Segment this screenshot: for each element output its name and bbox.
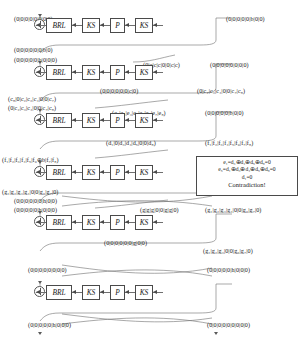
- arrow-icon: [100, 22, 110, 30]
- gate-chain-r6: BRL KS P KS: [36, 285, 163, 300]
- label-r6-bottom-right: (0|0|0|0|0|0|0|0|0): [207, 322, 250, 328]
- arrow-icon: [153, 289, 163, 297]
- gate-p-r1[interactable]: P: [110, 18, 125, 33]
- gate-ks-a-r2[interactable]: KS: [82, 65, 100, 80]
- gate-ks-b-r3[interactable]: KS: [135, 113, 153, 128]
- gate-ks-a-r3[interactable]: KS: [82, 113, 100, 128]
- arrow-icon: [153, 219, 163, 227]
- gate-ks-b-r1[interactable]: KS: [135, 18, 153, 33]
- label-r6-bottom-left: (0|0|0|0|0|h|0|0|0): [28, 322, 71, 328]
- arrow-icon: [72, 69, 82, 77]
- arrow-icon: [153, 22, 163, 30]
- gate-chain-r2: BRL KS P KS: [36, 65, 163, 80]
- arrow-icon: [125, 22, 135, 30]
- contradiction-box: e₁=d₃⊕d₄⊕d₅⊕d₈=0 e₅=d₁⊕d₃⊕d₄⊕d₅⊕d₈=0 d₁=…: [196, 156, 298, 196]
- gate-chain-r5: BRL KS P KS: [36, 215, 163, 230]
- label-r5-bottom-right: (g₁|g₂|g₃|0|0|g₆|g₇|0): [203, 248, 253, 254]
- arrow-icon: [36, 22, 46, 30]
- label-r4-bottom-left: (g₁|g₂|g₃|g₄|0|0|g₆|g₇|0): [2, 189, 59, 195]
- label-r6-top-left: (0|0|0|0|0|0|0|0): [28, 267, 67, 273]
- label-r3-bottom-mid: (d₁|0|d₃|d₄|d₅|0|0|d₈): [106, 140, 156, 146]
- gate-p-r2[interactable]: P: [110, 65, 125, 80]
- round-3: BRL KS P KS: [0, 105, 300, 135]
- arrow-icon: [36, 117, 46, 125]
- arrow-icon: [100, 169, 110, 177]
- gate-p-r4[interactable]: P: [110, 165, 125, 180]
- gate-brl-r2[interactable]: BRL: [46, 65, 72, 80]
- gate-p-r5[interactable]: P: [110, 215, 125, 230]
- gate-brl-r6[interactable]: BRL: [46, 285, 72, 300]
- round-6: BRL KS P KS: [0, 277, 300, 307]
- label-r6-top-right: (0|0|0|0|0|h|0|0|0): [207, 267, 250, 273]
- arrow-icon: [100, 117, 110, 125]
- gate-ks-b-r2[interactable]: KS: [135, 65, 153, 80]
- contradiction-eq-2: e₅=d₁⊕d₃⊕d₄⊕d₅⊕d₈=0: [200, 166, 294, 173]
- gate-ks-a-r4[interactable]: KS: [82, 165, 100, 180]
- arrow-icon: [72, 22, 82, 30]
- gate-ks-a-r1[interactable]: KS: [82, 18, 100, 33]
- arrow-icon: [153, 117, 163, 125]
- arrow-icon: [100, 69, 110, 77]
- gate-ks-b-r5[interactable]: KS: [135, 215, 153, 230]
- gate-p-r6[interactable]: P: [110, 285, 125, 300]
- arrow-icon: [125, 289, 135, 297]
- gate-ks-b-r4[interactable]: KS: [135, 165, 153, 180]
- label-r5-top-left: (0|0|0|0|0|0|h|0|0): [14, 198, 57, 204]
- arrow-icon: [36, 219, 46, 227]
- gate-brl-r1[interactable]: BRL: [46, 18, 72, 33]
- gate-brl-r3[interactable]: BRL: [46, 113, 72, 128]
- arrow-icon: [100, 289, 110, 297]
- round-2: BRL KS P KS: [0, 57, 300, 87]
- arrow-icon: [153, 69, 163, 77]
- gate-ks-a-r5[interactable]: KS: [82, 215, 100, 230]
- arrow-icon: [72, 117, 82, 125]
- arrow-icon: [72, 169, 82, 177]
- arrow-icon: [36, 69, 46, 77]
- contradiction-conclusion: Contradiction!: [200, 181, 294, 189]
- label-r5-bottom-mid: (0|0|0|0|0|0|g|0|0): [104, 240, 147, 246]
- arrow-marker: [214, 332, 218, 335]
- gate-ks-b-r6[interactable]: KS: [135, 285, 153, 300]
- label-r3-bottom-right: (f₁|f₂|f₃|f₄|f₅|f₆|f₇|f₈): [205, 140, 253, 146]
- label-r2-bottom-right: (0|c₂|c₃|c₄|0|0|c₇|c₈): [197, 88, 245, 94]
- arrow-icon: [72, 219, 82, 227]
- label-r1-bottom-left: (0|0|0|0|0|0|b|0): [14, 47, 53, 53]
- gate-brl-r5[interactable]: BRL: [46, 215, 72, 230]
- arrow-icon: [36, 169, 46, 177]
- arrow-icon: [153, 169, 163, 177]
- arrow-marker: [38, 332, 42, 335]
- contradiction-eq-1: e₁=d₃⊕d₄⊕d₅⊕d₈=0: [200, 159, 294, 166]
- gate-chain-r1: BRL KS P KS: [36, 18, 163, 33]
- arrow-icon: [125, 69, 135, 77]
- contradiction-eq-3: d₁=0: [200, 174, 294, 181]
- diagram-canvas: (0|0|0|0|0|0|0|0) (0|0|0|0|0|b|0|0) BRL …: [0, 0, 300, 343]
- round-5: BRL KS P KS: [0, 207, 300, 237]
- arrow-icon: [100, 219, 110, 227]
- gate-chain-r3: BRL KS P KS: [36, 113, 163, 128]
- label-r2-bottom-left: (c₈|0|c₂|c₃|c₄|0|0|c₇): [8, 96, 56, 102]
- arrow-icon: [125, 219, 135, 227]
- arrow-icon: [125, 117, 135, 125]
- round-1: BRL KS P KS: [0, 10, 300, 40]
- arrow-icon: [125, 169, 135, 177]
- gate-ks-a-r6[interactable]: KS: [82, 285, 100, 300]
- gate-p-r3[interactable]: P: [110, 113, 125, 128]
- arrow-icon: [72, 289, 82, 297]
- label-r2-bottom-mid: (0|0|0|0|0|0|c|0): [100, 88, 138, 94]
- gate-chain-r4: BRL KS P KS: [36, 165, 163, 180]
- gate-brl-r4[interactable]: BRL: [46, 165, 72, 180]
- arrow-icon: [36, 289, 46, 297]
